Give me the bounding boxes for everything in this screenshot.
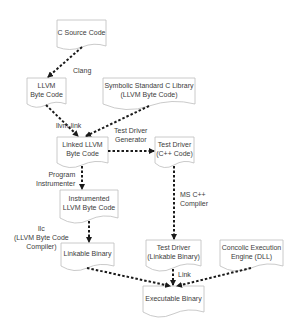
node-linkable-binary: Linkable Binary — [61, 243, 114, 268]
edge-label-line: (LLVM Byte Code — [14, 233, 69, 242]
node-label: LLVM — [30, 81, 63, 90]
edge-label-test-driver-generator: Test Driver Generator — [114, 126, 147, 144]
node-label: (Linkable Binary) — [147, 252, 200, 261]
node-linked-llvm-byte-code: Linked LLVM Byte Code — [57, 137, 108, 165]
diagram-canvas — [0, 0, 299, 335]
edge-label-program-instrumenter: Program Instrumenter — [36, 170, 75, 188]
edge-label-clang: Clang — [73, 66, 91, 75]
node-symbolic-std-c-library: Symbolic Standard C Library (LLVM Byte C… — [103, 78, 195, 106]
edge-label-line: Generator — [114, 135, 147, 144]
node-test-driver-cpp: Test Driver (C++ Code) — [155, 137, 194, 165]
node-label: Linkable Binary — [64, 249, 112, 258]
edge-label-link: Link — [178, 270, 191, 279]
node-test-driver-linkable-binary: Test Driver (Linkable Binary) — [146, 240, 201, 268]
node-c-source-code: C Source Code — [57, 20, 106, 48]
edge-label-llvm-link: llvm-link — [56, 121, 81, 130]
node-instrumented-llvm-byte-code: Instrumented LLVM Byte Code — [60, 190, 118, 220]
node-label: Byte Code — [62, 149, 102, 158]
edge-label-line: Compiler) — [14, 242, 69, 251]
edge-label-line: llc — [14, 224, 69, 233]
edge-label-line: Instrumenter — [36, 179, 75, 188]
edge-label-llc: llc (LLVM Byte Code Compiler) — [14, 224, 69, 251]
node-llvm-byte-code: LLVM Byte Code — [27, 78, 66, 106]
node-label: LLVM Byte Code — [63, 203, 115, 212]
node-label: C Source Code — [58, 28, 106, 37]
node-concolic-execution-engine: Concolic Execution Engine (DLL) — [220, 240, 283, 268]
node-label: Instrumented — [63, 194, 115, 203]
node-label: Test Driver — [147, 243, 200, 252]
edge-label-line: MS C++ — [180, 190, 208, 199]
node-label: Engine (DLL) — [222, 252, 282, 261]
node-label: Executable Binary — [145, 294, 201, 303]
node-label: Byte Code — [30, 90, 63, 99]
node-label: (C++ Code) — [156, 149, 193, 158]
node-executable-binary: Executable Binary — [143, 286, 204, 314]
node-label: Concolic Execution — [222, 243, 282, 252]
node-label: Linked LLVM — [62, 140, 102, 149]
edge-label-line: Test Driver — [114, 126, 147, 135]
edge-label-line: Compiler — [180, 199, 208, 208]
node-label: Symbolic Standard C Library — [104, 81, 193, 90]
node-label: Test Driver — [156, 140, 193, 149]
node-label: (LLVM Byte Code) — [104, 90, 193, 99]
toolchain-diagram: C Source Code LLVM Byte Code Symbolic St… — [0, 0, 299, 335]
edge-label-line: Program — [36, 170, 75, 179]
edge-label-ms-cpp-compiler: MS C++ Compiler — [180, 190, 208, 208]
